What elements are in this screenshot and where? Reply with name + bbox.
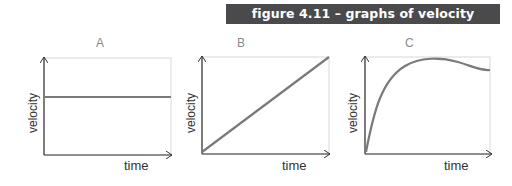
graph-b <box>202 56 330 154</box>
graph-c-curve <box>366 59 490 152</box>
graph-b-curve <box>202 57 329 152</box>
graphs-canvas <box>0 0 512 186</box>
graph-b-x-label: time <box>282 158 307 173</box>
graph-a-x-label: time <box>124 158 149 173</box>
graph-a-frame <box>44 58 171 155</box>
graph-c <box>365 56 492 154</box>
graph-c-frame <box>365 57 490 154</box>
graph-b-y-label: velocity <box>184 93 198 133</box>
graph-a <box>44 57 172 155</box>
graph-c-x-label: time <box>444 158 469 173</box>
graph-a-y-label: velocity <box>26 93 40 133</box>
graph-c-y-label: velocity <box>346 93 360 133</box>
